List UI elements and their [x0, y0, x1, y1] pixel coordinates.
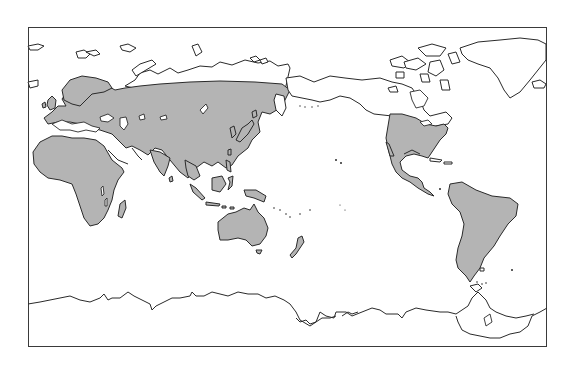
java: [206, 202, 220, 206]
north-america-range: [386, 114, 448, 196]
new-guinea: [244, 190, 266, 202]
borneo: [212, 176, 226, 192]
antarctica-coast-east: [456, 308, 547, 338]
greenland: [460, 38, 546, 98]
sulawesi: [228, 176, 233, 190]
sumatra: [190, 184, 205, 200]
british-isles: [47, 96, 56, 110]
africa-range: [33, 136, 124, 226]
philippines: [226, 160, 231, 172]
new-zealand: [290, 236, 304, 258]
iceland: [532, 80, 546, 88]
antarctica-coast-west: [28, 292, 290, 310]
australia-range: [218, 204, 268, 246]
madagascar: [118, 200, 126, 218]
kamchatka: [274, 94, 286, 116]
world-map: [0, 0, 570, 365]
south-america-range: [448, 182, 518, 282]
